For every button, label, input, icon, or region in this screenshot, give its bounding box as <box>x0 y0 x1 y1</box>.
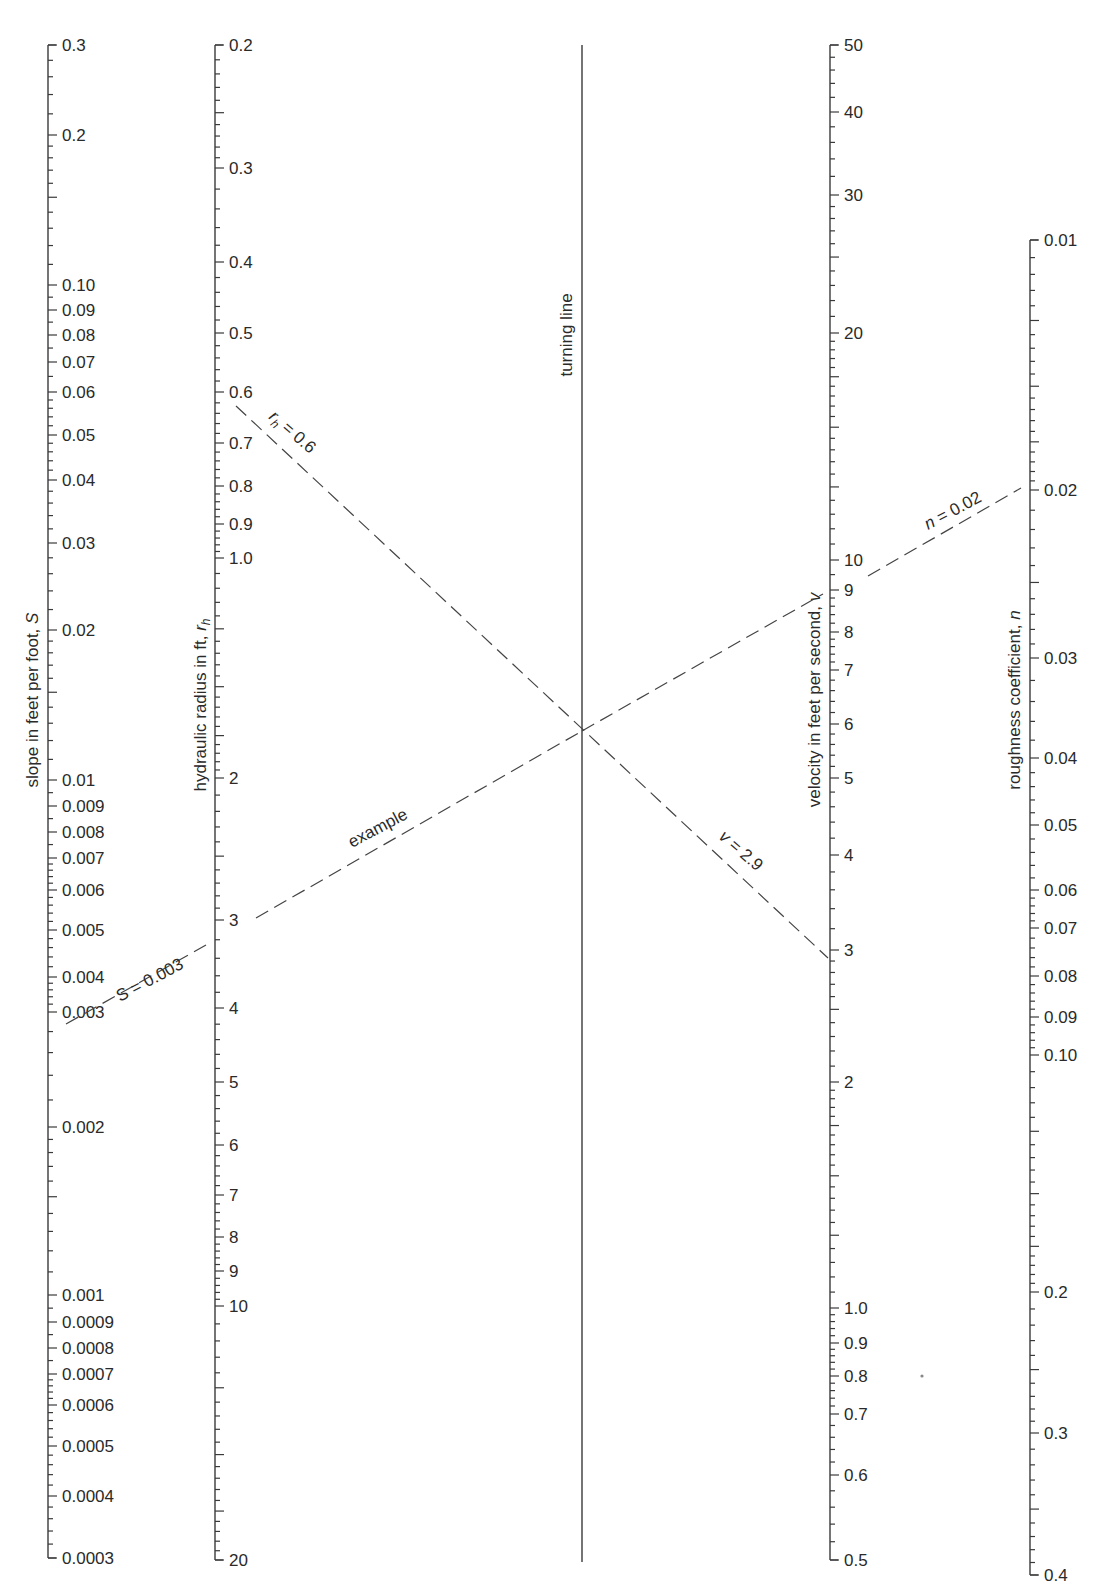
tick-label: 0.7 <box>844 1405 868 1424</box>
tick-label: 6 <box>229 1136 238 1155</box>
tick-label: 0.001 <box>62 1286 105 1305</box>
tick-label: 0.0003 <box>62 1549 114 1568</box>
tick-label: 2 <box>229 769 238 788</box>
tick-label: 6 <box>844 715 853 734</box>
tick-label: 0.6 <box>844 1466 868 1485</box>
scale-slope: 0.30.20.100.090.080.070.060.050.040.030.… <box>23 36 114 1568</box>
tick-label: 0.0006 <box>62 1396 114 1415</box>
tick-label: 0.02 <box>62 621 95 640</box>
tick-label: 3 <box>229 911 238 930</box>
tick-label: 4 <box>844 846 853 865</box>
scale-roughness: 0.010.020.030.040.050.060.070.080.090.10… <box>1005 231 1077 1585</box>
tick-label: 0.01 <box>62 771 95 790</box>
example-line-right <box>582 594 823 731</box>
tick-label: 7 <box>229 1186 238 1205</box>
tick-label: 5 <box>844 769 853 788</box>
tick-label: 8 <box>229 1228 238 1247</box>
tick-label: 0.0009 <box>62 1313 114 1332</box>
tick-label: 0.4 <box>229 253 253 272</box>
tick-label: 20 <box>229 1551 248 1570</box>
axis-title: velocity in feet per second, v <box>805 591 824 807</box>
tick-label: 0.3 <box>229 159 253 178</box>
tick-label: 3 <box>844 941 853 960</box>
tick-label: 0.009 <box>62 797 105 816</box>
tick-label: 0.08 <box>62 326 95 345</box>
roughness-segment <box>868 488 1021 576</box>
tick-label: 0.9 <box>229 515 253 534</box>
tick-label: 0.8 <box>229 477 253 496</box>
tick-label: 0.002 <box>62 1118 105 1137</box>
tick-label: 5 <box>229 1073 238 1092</box>
tick-label: 0.05 <box>1044 816 1077 835</box>
tick-label: 0.2 <box>1044 1283 1068 1302</box>
n-ann: n = 0.02 <box>921 488 985 534</box>
tick-label: 0.0004 <box>62 1487 114 1506</box>
rh-ann: rh = 0.6 <box>263 407 319 460</box>
axis-title: hydraulic radius in ft, rh <box>191 618 213 791</box>
tick-label: 0.5 <box>229 324 253 343</box>
tick-label: 0.04 <box>1044 749 1077 768</box>
tick-label: 0.08 <box>1044 967 1077 986</box>
tick-label: 10 <box>229 1297 248 1316</box>
s-ann: S = 0.003 <box>113 954 187 1005</box>
tick-label: 0.7 <box>229 434 253 453</box>
axis-title: roughness coefficient, n <box>1005 610 1024 789</box>
rh-v-line <box>236 406 828 958</box>
tick-label: 0.01 <box>1044 231 1077 250</box>
turning-line-group: turning line <box>557 45 582 1562</box>
tick-label: 0.10 <box>62 276 95 295</box>
tick-label: 0.05 <box>62 426 95 445</box>
tick-label: 0.007 <box>62 849 105 868</box>
tick-label: 0.004 <box>62 968 105 987</box>
tick-label: 8 <box>844 623 853 642</box>
tick-label: 0.04 <box>62 471 95 490</box>
tick-label: 0.2 <box>62 126 86 145</box>
scale-hydraulic-radius: 0.20.30.40.50.60.70.80.91.0234567891020h… <box>191 36 253 1570</box>
tick-label: 0.07 <box>62 353 95 372</box>
tick-label: 0.10 <box>1044 1046 1077 1065</box>
example-ann: example <box>345 805 411 852</box>
tick-label: 0.06 <box>62 383 95 402</box>
v-ann: v = 2.9 <box>715 827 766 875</box>
tick-label: 2 <box>844 1073 853 1092</box>
axis-title: slope in feet per foot, S <box>23 612 42 788</box>
turning-line-label: turning line <box>557 293 576 376</box>
tick-label: 0.4 <box>1044 1566 1068 1585</box>
scale-velocity: 5040302010987654321.00.90.80.70.60.5velo… <box>805 36 868 1570</box>
scales-group: 0.30.20.100.090.080.070.060.050.040.030.… <box>23 36 1077 1585</box>
tick-label: 0.8 <box>844 1367 868 1386</box>
tick-label: 0.005 <box>62 921 105 940</box>
tick-label: 40 <box>844 103 863 122</box>
tick-label: 50 <box>844 36 863 55</box>
tick-label: 0.0008 <box>62 1339 114 1358</box>
tick-label: 9 <box>844 581 853 600</box>
tick-label: 0.3 <box>1044 1424 1068 1443</box>
tick-label: 0.09 <box>62 301 95 320</box>
tick-label: 0.2 <box>229 36 253 55</box>
tick-label: 0.03 <box>1044 649 1077 668</box>
tick-label: 0.5 <box>844 1551 868 1570</box>
tick-label: 30 <box>844 186 863 205</box>
tick-label: 0.003 <box>62 1003 105 1022</box>
tick-label: 0.02 <box>1044 481 1077 500</box>
tick-label: 0.06 <box>1044 881 1077 900</box>
tick-label: 0.008 <box>62 823 105 842</box>
tick-label: 0.09 <box>1044 1008 1077 1027</box>
tick-label: 0.07 <box>1044 919 1077 938</box>
nomograph: 0.30.20.100.090.080.070.060.050.040.030.… <box>0 0 1119 1591</box>
tick-label: 0.0005 <box>62 1437 114 1456</box>
stray-dot <box>920 1374 923 1377</box>
tick-label: 0.006 <box>62 881 105 900</box>
tick-label: 0.9 <box>844 1334 868 1353</box>
tick-label: 0.3 <box>62 36 86 55</box>
tick-label: 1.0 <box>844 1299 868 1318</box>
tick-label: 1.0 <box>229 549 253 568</box>
tick-label: 9 <box>229 1262 238 1281</box>
example-line-left <box>256 731 582 918</box>
tick-label: 0.6 <box>229 383 253 402</box>
tick-label: 7 <box>844 661 853 680</box>
tick-label: 10 <box>844 551 863 570</box>
tick-label: 0.0007 <box>62 1365 114 1384</box>
tick-label: 20 <box>844 324 863 343</box>
tick-label: 0.03 <box>62 534 95 553</box>
